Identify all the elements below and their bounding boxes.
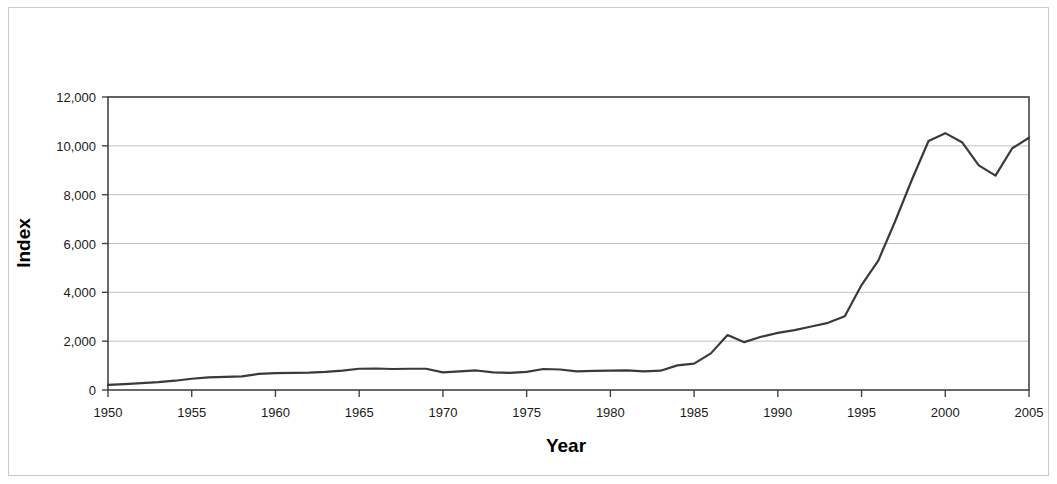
x-tick-label: 1995 xyxy=(847,405,876,420)
chart-figure: 02,0004,0006,0008,00010,00012,000 195019… xyxy=(0,0,1057,484)
y-tick-label: 8,000 xyxy=(63,188,96,203)
x-tick-label: 2000 xyxy=(931,405,960,420)
x-tick-label: 1960 xyxy=(261,405,290,420)
x-axis-ticks: 1950195519601965197019751980198519901995… xyxy=(94,390,1044,420)
x-tick-label: 1955 xyxy=(177,405,206,420)
y-tick-label: 6,000 xyxy=(63,237,96,252)
x-tick-label: 1950 xyxy=(94,405,123,420)
data-series-group xyxy=(108,133,1029,385)
y-axis-ticks: 02,0004,0006,0008,00010,00012,000 xyxy=(56,90,108,398)
gridlines xyxy=(108,97,1029,341)
x-axis-title: Year xyxy=(546,435,587,456)
x-tick-label: 1975 xyxy=(512,405,541,420)
y-tick-label: 2,000 xyxy=(63,334,96,349)
x-tick-label: 2005 xyxy=(1015,405,1044,420)
x-tick-label: 1985 xyxy=(680,405,709,420)
x-tick-label: 1970 xyxy=(428,405,457,420)
x-tick-label: 1990 xyxy=(763,405,792,420)
x-tick-label: 1980 xyxy=(596,405,625,420)
y-axis-title: Index xyxy=(13,218,34,268)
y-tick-label: 0 xyxy=(89,383,96,398)
y-tick-label: 12,000 xyxy=(56,90,96,105)
y-tick-label: 10,000 xyxy=(56,139,96,154)
data-line xyxy=(108,133,1029,385)
y-tick-label: 4,000 xyxy=(63,285,96,300)
line-chart: 02,0004,0006,0008,00010,00012,000 195019… xyxy=(0,0,1057,484)
x-tick-label: 1965 xyxy=(345,405,374,420)
